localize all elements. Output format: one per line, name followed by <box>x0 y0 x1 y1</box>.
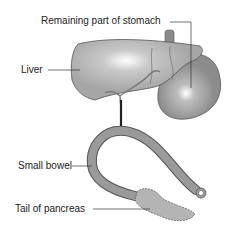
pancreas <box>135 189 195 221</box>
small-bowel-label: Small bowel <box>18 160 72 172</box>
pancreas-label: Tail of pancreas <box>15 203 85 215</box>
liver-label: Liver <box>21 64 43 76</box>
small-bowel <box>92 131 206 198</box>
stomach-label: Remaining part of stomach <box>41 15 161 27</box>
